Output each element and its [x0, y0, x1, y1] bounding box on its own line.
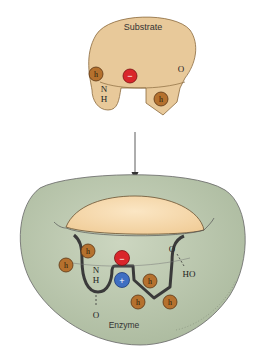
- enzyme-hydrophobic-5: h: [163, 295, 177, 309]
- enzyme-hydrophobic-3: h: [143, 274, 157, 288]
- bound-negative-charge: −: [115, 251, 130, 266]
- enzyme-o-label-bottom: O: [93, 310, 100, 320]
- enzyme-hydrophobic-1: h: [59, 258, 73, 272]
- enzyme-hydrophobic-4: h: [131, 295, 145, 309]
- binding-arrow: [132, 132, 139, 180]
- svg-text:h: h: [64, 261, 68, 270]
- substrate-negative-charge: −: [123, 69, 137, 83]
- substrate-hydrophobic-1: h: [89, 67, 103, 81]
- svg-text:h: h: [168, 298, 172, 307]
- svg-text:+: +: [119, 276, 124, 286]
- substrate-h-label: H: [101, 94, 108, 104]
- substrate-label: Substrate: [124, 22, 163, 32]
- svg-text:h: h: [136, 298, 140, 307]
- enzyme-hydrophobic-2: h: [81, 244, 95, 258]
- substrate-n-label: N: [101, 84, 108, 94]
- svg-text:−: −: [119, 254, 124, 264]
- substrate-molecule: Substrate h − h N H O: [89, 17, 196, 115]
- svg-text:h: h: [159, 95, 163, 104]
- diagram-canvas: Substrate h − h N H O: [0, 0, 261, 355]
- svg-text:h: h: [94, 70, 98, 79]
- enzyme-o-label-top: O: [169, 244, 176, 254]
- enzyme-n-label: N: [93, 265, 100, 275]
- svg-text:h: h: [86, 247, 90, 256]
- svg-text:h: h: [148, 277, 152, 286]
- enzyme-ho-label: HO: [183, 269, 196, 279]
- enzyme-label: Enzyme: [109, 320, 140, 330]
- enzyme-positive-charge: +: [115, 273, 130, 288]
- svg-text:−: −: [127, 71, 132, 81]
- enzyme-h-label: H: [93, 275, 100, 285]
- substrate-o-label: O: [178, 64, 185, 74]
- substrate-hydrophobic-2: h: [154, 92, 168, 106]
